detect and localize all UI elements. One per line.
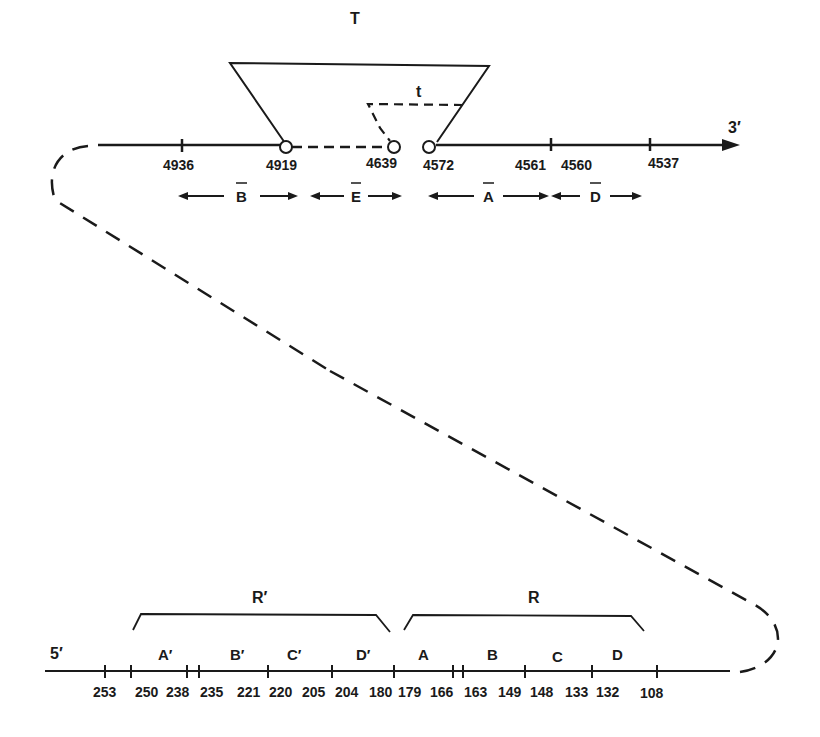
- loop-T: [230, 63, 489, 143]
- svg-text:163: 163: [464, 684, 488, 700]
- svg-text:166: 166: [430, 684, 454, 700]
- segment-label: D′: [356, 646, 371, 663]
- svg-text:179: 179: [398, 684, 422, 700]
- segment-label: B: [487, 646, 498, 663]
- svg-text:204: 204: [335, 684, 359, 700]
- bracket-R-label: R: [528, 589, 540, 606]
- svg-text:221: 221: [237, 684, 261, 700]
- pos-label: 4561: [515, 157, 546, 173]
- svg-text:238: 238: [166, 684, 190, 700]
- bracket-R-prime: [133, 614, 390, 632]
- loop-t: [368, 104, 463, 141]
- loop-t-label: t: [416, 83, 422, 100]
- svg-text:205: 205: [302, 684, 326, 700]
- svg-text:250: 250: [135, 684, 159, 700]
- junction-circle-4639: [388, 141, 400, 153]
- junction-circle-4572: [423, 141, 435, 153]
- svg-text:108: 108: [640, 685, 664, 701]
- bottom-position-labels: 253 250 238 235 221 220 205 204 180 179 …: [93, 684, 664, 701]
- segment-label: A: [418, 646, 429, 663]
- connector-dashed-left: [52, 146, 330, 371]
- three-prime-label: 3′: [728, 119, 741, 136]
- segment-label-B-bar: B: [236, 188, 247, 205]
- pos-label: 4639: [366, 155, 397, 171]
- svg-text:132: 132: [596, 684, 620, 700]
- connector-dashed-right: [330, 371, 778, 672]
- segment-label: A′: [158, 646, 173, 663]
- pos-label: 4919: [266, 157, 297, 173]
- pos-label: 4572: [423, 157, 454, 173]
- segment-label-A-bar: A: [483, 188, 494, 205]
- arrowhead-icon: [722, 139, 740, 151]
- pos-label: 4537: [648, 155, 679, 171]
- segment-label: D: [612, 646, 623, 663]
- svg-text:220: 220: [269, 684, 293, 700]
- segment-label-E-bar: E: [351, 188, 361, 205]
- junction-circle-4919: [280, 141, 292, 153]
- svg-text:149: 149: [498, 684, 522, 700]
- five-prime-label: 5′: [50, 645, 63, 662]
- segment-label: C′: [287, 646, 302, 663]
- svg-text:133: 133: [565, 684, 589, 700]
- loop-T-label: T: [350, 10, 360, 27]
- bracket-R: [404, 615, 644, 631]
- svg-text:253: 253: [93, 684, 117, 700]
- segment-label: C: [552, 648, 563, 665]
- pos-label: 4560: [561, 157, 592, 173]
- svg-text:235: 235: [200, 684, 224, 700]
- bracket-R-prime-label: R′: [252, 589, 268, 606]
- segment-label-D-bar: D: [590, 188, 601, 205]
- strand-diagram: T t 3′ 4936 4919 4639 4572 4561 4560 453…: [0, 0, 820, 737]
- svg-text:148: 148: [530, 684, 554, 700]
- segment-label: B′: [230, 646, 245, 663]
- pos-label: 4936: [163, 157, 194, 173]
- svg-text:180: 180: [369, 684, 393, 700]
